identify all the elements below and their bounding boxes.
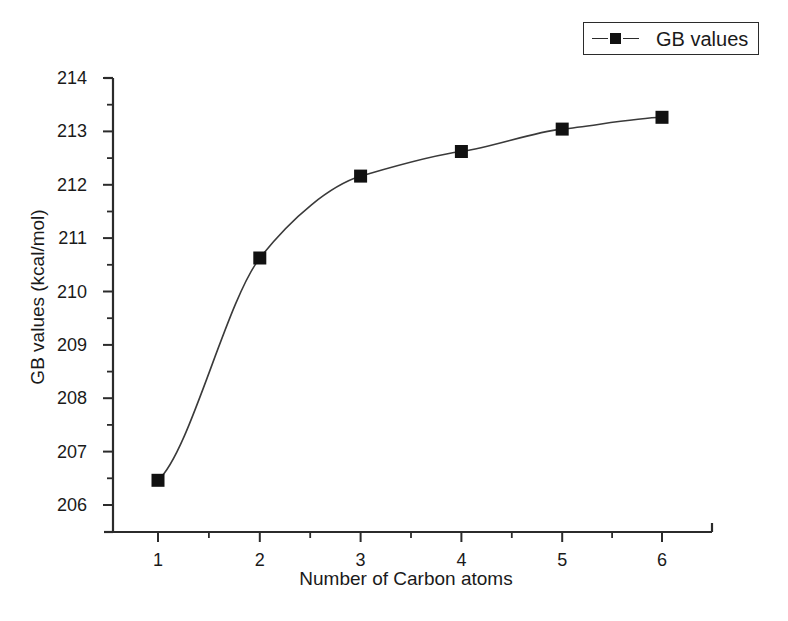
y-axis-title: GB values (kcal/mol) <box>27 167 49 427</box>
x-tick-label: 1 <box>138 551 178 569</box>
x-tick-label: 4 <box>441 551 481 569</box>
chart-figure: GB values <box>0 0 788 621</box>
x-tick-label: 6 <box>642 551 682 569</box>
x-tick-label: 3 <box>341 551 381 569</box>
x-tick-label: 2 <box>240 551 280 569</box>
x-axis-tick-labels: 1 2 3 4 5 6 <box>0 0 788 621</box>
x-tick-label: 5 <box>542 551 582 569</box>
x-axis-title: Number of Carbon atoms <box>100 568 712 590</box>
